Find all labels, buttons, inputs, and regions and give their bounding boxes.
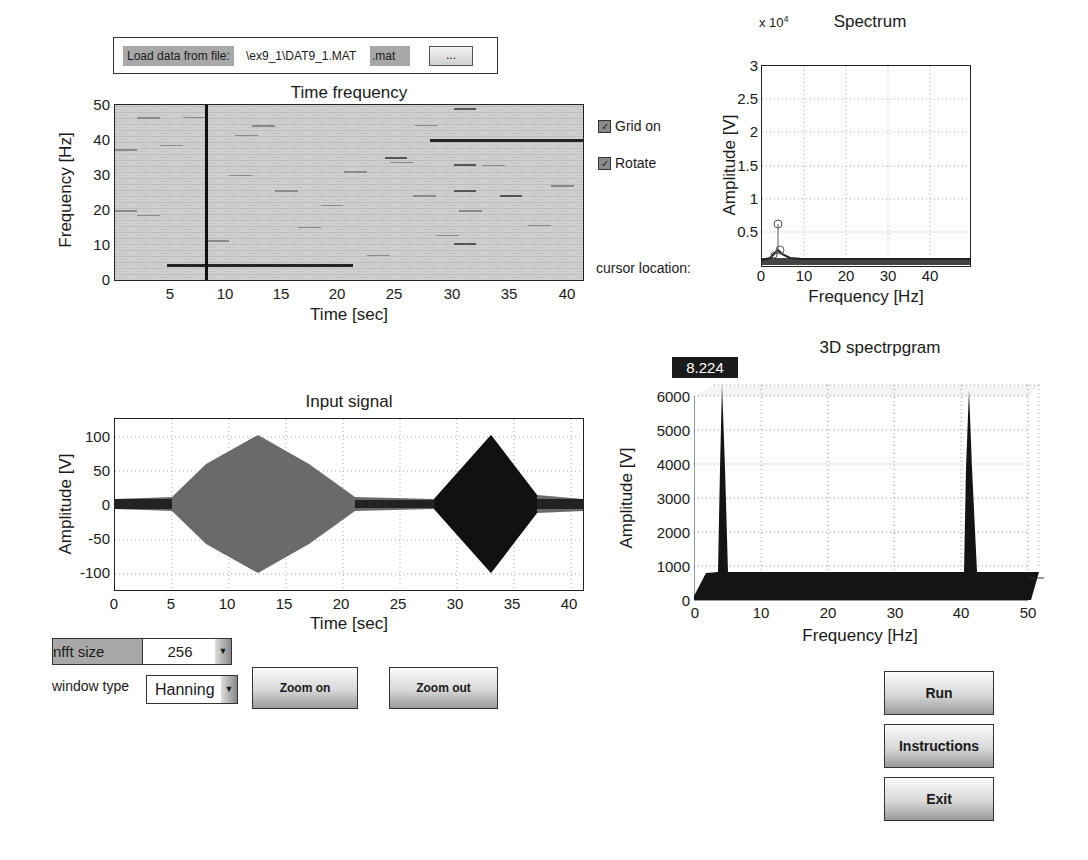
input-xlabel: Time [sec]: [114, 614, 584, 634]
input-xtick: 5: [163, 595, 179, 612]
input-xtick: 15: [269, 595, 299, 612]
tf-xtick: 40: [552, 285, 582, 302]
spectrogram-image: [115, 105, 583, 280]
slice-time-label: 8.224: [672, 357, 738, 378]
spectrum-xtick: 30: [874, 267, 902, 284]
tf-ytick: 0: [86, 271, 110, 288]
spectrum-ytick: 2: [730, 123, 758, 140]
nfft-value: 256: [143, 639, 217, 664]
chevron-down-icon: ▼: [221, 676, 237, 703]
spectrogram-ytick: 2000: [640, 524, 690, 541]
window-type-label: window type: [52, 678, 129, 694]
tf-xlabel: Time [sec]: [114, 305, 584, 325]
time-frequency-title: Time frequency: [114, 83, 584, 103]
spectrum-ytick: 0.5: [730, 223, 758, 240]
spectrogram-ytick: 1000: [640, 558, 690, 575]
file-extension-field[interactable]: .mat: [370, 46, 410, 66]
tf-xtick: 10: [210, 285, 240, 302]
exit-button[interactable]: Exit: [884, 777, 994, 821]
spectrum-ytick: 1.5: [730, 157, 758, 174]
input-xtick: 35: [497, 595, 527, 612]
grid-on-checkbox[interactable]: ✓ Grid on: [598, 118, 661, 134]
spectrum-ytick: 2.5: [730, 90, 758, 107]
spectrum-xlabel: Frequency [Hz]: [761, 287, 971, 307]
spectrogram-3d-surface: [694, 378, 1044, 602]
spectrum-ytick: 1: [730, 190, 758, 207]
spectrum-plot[interactable]: [761, 65, 971, 267]
tf-ytick: 50: [86, 96, 110, 113]
cursor-location-label: cursor location:: [596, 260, 691, 276]
spectrogram-ytick: 3000: [640, 490, 690, 507]
rotate-checkbox[interactable]: ✓ Rotate: [598, 155, 656, 171]
tf-ytick: 10: [86, 236, 110, 253]
input-xtick: 25: [383, 595, 413, 612]
spectrum-xtick: 20: [832, 267, 860, 284]
window-type-dropdown[interactable]: Hanning ▼: [146, 675, 238, 704]
input-ytick: 100: [70, 428, 110, 445]
spectrogram-3d-plot[interactable]: [694, 378, 1044, 602]
zoom-out-button[interactable]: Zoom out: [389, 667, 498, 709]
spectrogram-ytick: 0: [640, 592, 690, 609]
run-button[interactable]: Run: [884, 671, 994, 715]
grid-on-label: Grid on: [615, 118, 661, 134]
time-cursor-line: [205, 105, 208, 280]
tf-xtick: 5: [162, 285, 178, 302]
time-frequency-ylabel: Frequency [Hz]: [56, 120, 76, 260]
input-xtick: 0: [106, 595, 122, 612]
input-ytick: 50: [70, 462, 110, 479]
spectrogram-ytick: 4000: [640, 456, 690, 473]
spectrogram-xtick: 40: [946, 604, 976, 621]
spectrogram-3d-ylabel: Amplitude [V]: [617, 428, 637, 568]
spectrogram-ytick: 6000: [640, 388, 690, 405]
spectrogram-xtick: 20: [813, 604, 843, 621]
spectrum-line: [762, 66, 970, 266]
spectrogram-xtick: 10: [746, 604, 776, 621]
tf-ytick: 30: [86, 166, 110, 183]
spectrum-title: Spectrum: [800, 12, 940, 32]
spectrogram-xtick: 0: [687, 604, 703, 621]
spectrogram-ytick: 5000: [640, 422, 690, 439]
input-ytick: 0: [70, 496, 110, 513]
input-xtick: 30: [440, 595, 470, 612]
spectrogram-xlabel: Frequency [Hz]: [760, 626, 960, 646]
tf-xtick: 30: [437, 285, 467, 302]
file-path-field[interactable]: \ex9_1\DAT9_1.MAT: [246, 46, 356, 66]
input-xtick: 10: [212, 595, 242, 612]
tf-ytick: 20: [86, 201, 110, 218]
tf-xtick: 20: [322, 285, 352, 302]
nfft-label: nfft size: [53, 639, 104, 664]
spectrogram-xtick: 50: [1013, 604, 1043, 621]
spectrogram-3d-title: 3D spectrpgram: [760, 338, 1000, 358]
tf-xtick: 15: [266, 285, 296, 302]
nfft-size-dropdown[interactable]: 256 ▼: [142, 638, 232, 665]
rotate-label: Rotate: [615, 155, 656, 171]
input-signal-waveform: [115, 419, 583, 590]
input-xtick: 40: [554, 595, 584, 612]
input-signal-title: Input signal: [114, 392, 584, 412]
input-ytick: -100: [70, 564, 110, 581]
file-loader-panel: Load data from file: \ex9_1\DAT9_1.MAT .…: [113, 37, 498, 74]
spectrum-ytick: 3: [730, 57, 758, 74]
input-ytick: -50: [70, 530, 110, 547]
spectrum-xtick: 0: [753, 267, 769, 284]
input-xtick: 20: [326, 595, 356, 612]
checkmark-icon: ✓: [598, 157, 611, 170]
checkmark-icon: ✓: [598, 120, 611, 133]
tf-ytick: 40: [86, 131, 110, 148]
tf-xtick: 35: [494, 285, 524, 302]
instructions-button[interactable]: Instructions: [884, 724, 994, 768]
browse-button[interactable]: ...: [429, 46, 473, 66]
time-frequency-plot[interactable]: [114, 104, 584, 281]
window-type-value: Hanning: [155, 676, 215, 703]
spectrum-xtick: 10: [790, 267, 818, 284]
spectrogram-xtick: 30: [880, 604, 910, 621]
spectrum-xtick: 40: [916, 267, 944, 284]
tf-xtick: 25: [379, 285, 409, 302]
load-data-label: Load data from file:: [123, 46, 234, 66]
chevron-down-icon: ▼: [215, 639, 231, 664]
input-signal-plot[interactable]: [114, 418, 584, 591]
spectrum-y-multiplier: x 104: [759, 14, 789, 30]
zoom-on-button[interactable]: Zoom on: [252, 667, 358, 709]
